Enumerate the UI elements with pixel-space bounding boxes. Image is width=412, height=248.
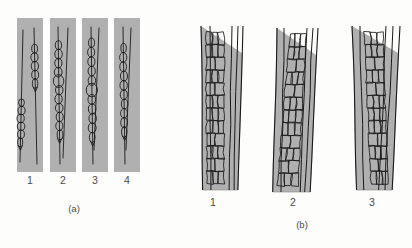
panel-a-label: 1 bbox=[27, 174, 33, 186]
panel-b: 123(b) bbox=[201, 26, 400, 230]
panel-a-caption: (a) bbox=[68, 203, 80, 214]
panel-a-item-4 bbox=[114, 18, 140, 172]
panel-b-label: 1 bbox=[210, 196, 216, 208]
panel-a-label: 2 bbox=[60, 174, 66, 186]
panel-b-label: 2 bbox=[290, 196, 296, 208]
panel-a-label: 4 bbox=[124, 174, 130, 186]
panel-a-label: 3 bbox=[92, 174, 98, 186]
panel-a-item-2 bbox=[50, 18, 76, 172]
panel-b-label: 3 bbox=[369, 196, 375, 208]
panel-b-item-2 bbox=[273, 28, 318, 192]
panel-a: 1234(a) bbox=[17, 18, 140, 214]
scientific-figure: 1234(a)123(b) bbox=[0, 0, 412, 248]
panel-b-item-3 bbox=[352, 26, 400, 190]
panel-a-item-1 bbox=[17, 18, 43, 172]
panel-a-item-3 bbox=[82, 18, 108, 172]
panel-b-caption: (b) bbox=[296, 219, 308, 230]
panel-b-item-1 bbox=[201, 26, 243, 190]
